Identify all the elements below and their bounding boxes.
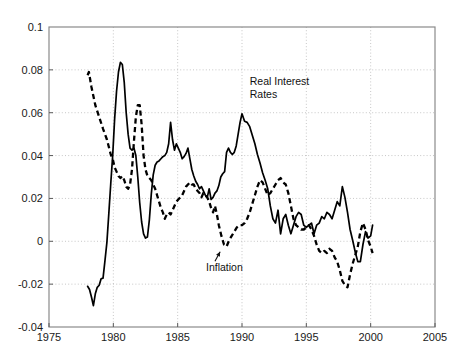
xtick-label: 1985 bbox=[165, 331, 189, 343]
chart-svg: 1975198019851990199520002005-0.04-0.0200… bbox=[0, 0, 468, 364]
ytick-label: 0 bbox=[37, 235, 43, 247]
ytick-label: 0.08 bbox=[22, 64, 43, 76]
xtick-label: 1980 bbox=[101, 331, 125, 343]
ytick-label: -0.02 bbox=[18, 278, 43, 290]
chart-annotations: Real InterestRatesInflation bbox=[206, 75, 309, 273]
label-inflation: Inflation bbox=[206, 261, 243, 273]
tick-labels: 1975198019851990199520002005-0.04-0.0200… bbox=[18, 21, 447, 343]
series-line-inflation bbox=[88, 72, 373, 287]
figure-container: 1975198019851990199520002005-0.04-0.0200… bbox=[0, 0, 468, 364]
ytick-label: 0.1 bbox=[28, 21, 43, 33]
ytick-label: 0.04 bbox=[22, 150, 43, 162]
label-real-interest-rates-line2: Rates bbox=[250, 88, 277, 100]
xtick-label: 2005 bbox=[423, 331, 447, 343]
xtick-label: 1995 bbox=[294, 331, 318, 343]
gridlines bbox=[49, 27, 435, 327]
xtick-label: 1990 bbox=[230, 331, 254, 343]
xtick-label: 2000 bbox=[358, 331, 382, 343]
ytick-label: -0.04 bbox=[18, 321, 43, 333]
label-real-interest-rates: Real Interest bbox=[250, 75, 310, 87]
ytick-label: 0.02 bbox=[22, 192, 43, 204]
ytick-label: 0.06 bbox=[22, 107, 43, 119]
